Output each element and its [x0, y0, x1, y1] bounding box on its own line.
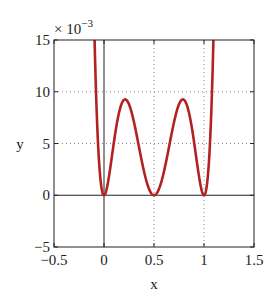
x-tick-label: 0	[100, 252, 108, 268]
y-axis-label: y	[16, 136, 24, 152]
x-tick-labels: −0.500.511.5	[40, 252, 263, 268]
y-tick-label: 15	[35, 32, 50, 48]
x-tick-label: 0.5	[145, 252, 164, 268]
y-tick-label: 5	[43, 136, 51, 152]
y-tick-label: 0	[43, 187, 51, 203]
x-tick-label: 1	[200, 252, 208, 268]
x-axis-label: x	[150, 276, 158, 292]
y-multiplier: × 10−3	[54, 17, 93, 37]
y-tick-labels: −5051015	[34, 32, 50, 255]
y-tick-label: 10	[35, 84, 50, 100]
y-tick-label: −5	[34, 239, 50, 255]
grid-lines	[54, 40, 254, 247]
line-chart: −0.500.511.5 −5051015 x y × 10−3	[0, 0, 276, 297]
x-tick-label: 1.5	[245, 252, 264, 268]
